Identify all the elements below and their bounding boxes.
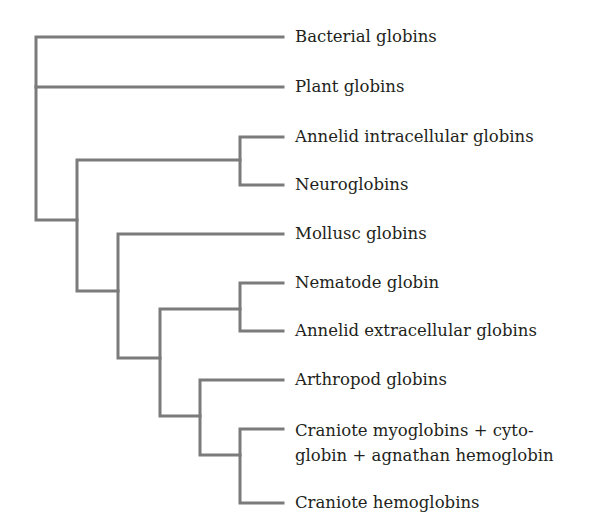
leaf-label-plant: Plant globins — [295, 76, 404, 98]
branch-n3 — [118, 234, 283, 358]
branch-n1 — [77, 160, 240, 291]
leaf-label-bacterial: Bacterial globins — [295, 26, 437, 48]
leaf-label-craniote-myoglobins: Craniote myoglobins + cyto- globin + agn… — [295, 418, 554, 468]
leaf-label-mollusc: Mollusc globins — [295, 223, 427, 245]
leaf-label-arthropod: Arthropod globins — [295, 369, 447, 391]
leaf-label-annelid-extracellular: Annelid extracellular globins — [295, 320, 537, 342]
leaf-label-nematode: Nematode globin — [295, 272, 439, 294]
leaf-label-craniote-hemoglobins: Craniote hemoglobins — [295, 492, 480, 514]
branch-n2 — [240, 137, 283, 185]
branch-n5 — [240, 283, 283, 331]
leaf-label-annelid-intracellular: Annelid intracellular globins — [295, 126, 534, 148]
branch-root — [36, 37, 283, 220]
leaf-label-neuroglobins: Neuroglobins — [295, 174, 408, 196]
branch-n7 — [240, 429, 283, 503]
